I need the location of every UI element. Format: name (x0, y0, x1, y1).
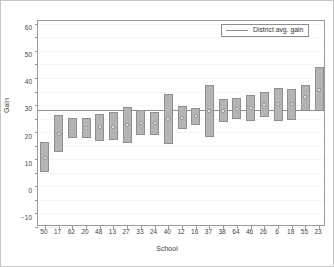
y-axis-tick-label: 40 (25, 79, 32, 86)
gridline (38, 213, 324, 214)
point-estimate-marker (180, 116, 184, 120)
x-axis-tick-label: 17 (54, 229, 61, 236)
x-axis-title: School (0, 245, 334, 252)
y-axis-tick (35, 24, 38, 25)
y-axis-tick-label: −10 (21, 215, 32, 222)
y-axis-tick (35, 186, 38, 187)
x-axis-tick-label: 62 (68, 229, 75, 236)
x-axis-tick-label: 40 (164, 229, 171, 236)
y-axis-tick-label: 10 (25, 161, 32, 168)
gridline (38, 51, 324, 52)
point-estimate-marker (153, 121, 157, 125)
x-axis-tick-label: 48 (95, 229, 102, 236)
x-axis-tick-label: 20 (81, 229, 88, 236)
x-axis-tick-label: 46 (246, 229, 253, 236)
x-axis-tick-label: 16 (191, 229, 198, 236)
x-axis-tick-label: 18 (287, 229, 294, 236)
point-estimate-marker (249, 106, 253, 110)
x-axis-tick-label: 23 (314, 229, 321, 236)
x-axis-tick-label: 27 (122, 229, 129, 236)
y-axis-tick (35, 173, 38, 174)
x-axis-tick-label: 55 (301, 229, 308, 236)
gridline (38, 64, 324, 65)
gridline (38, 186, 324, 187)
y-axis-tick-label: 30 (25, 106, 32, 113)
y-axis-tick (35, 92, 38, 93)
gridline (38, 200, 324, 201)
x-axis-tick-label: 6 (275, 229, 279, 236)
x-axis-tick-label: 38 (218, 229, 225, 236)
legend-item-label: District avg. gain (253, 27, 303, 34)
y-axis-tick (35, 132, 38, 133)
y-axis-tick (35, 51, 38, 52)
chart-legend: District avg. gain (221, 24, 309, 37)
point-estimate-marker (43, 156, 47, 160)
y-axis-tick-label: 60 (25, 25, 32, 32)
x-axis-tick-label: 64 (232, 229, 239, 236)
gridline (38, 159, 324, 160)
y-axis-tick-label: 20 (25, 134, 32, 141)
x-axis-tick-labels: 5017622048132733244012163738644626618552… (37, 229, 325, 241)
y-axis-tick (35, 78, 38, 79)
point-estimate-marker (57, 132, 61, 136)
x-axis-tick-label: 12 (177, 229, 184, 236)
x-axis-tick-label: 50 (40, 229, 47, 236)
y-axis-tick (35, 64, 38, 65)
point-estimate-marker (221, 109, 225, 113)
y-axis-tick (35, 200, 38, 201)
x-axis-tick-label: 24 (150, 229, 157, 236)
y-axis-tick-label: 50 (25, 52, 32, 59)
gridline (38, 78, 324, 79)
plot-area (37, 20, 325, 226)
chart-figure: Gain −100102030405060 501762204813273324… (0, 0, 334, 267)
point-estimate-marker (262, 103, 266, 107)
y-axis-tick-label: 0 (28, 188, 32, 195)
y-axis-tick (35, 159, 38, 160)
x-axis-tick-label: 26 (260, 229, 267, 236)
point-estimate-marker (84, 126, 88, 130)
y-axis-tick (35, 105, 38, 106)
y-axis-tick (35, 227, 38, 228)
y-axis-tick (35, 119, 38, 120)
y-axis-tick (35, 213, 38, 214)
y-axis-tick (35, 146, 38, 147)
gridline (38, 37, 324, 38)
y-axis-tick (35, 37, 38, 38)
y-axis-tick-labels: −100102030405060 (0, 20, 35, 226)
gridline (38, 173, 324, 174)
x-axis-tick-label: 37 (205, 229, 212, 236)
legend-line-swatch (226, 30, 248, 31)
x-axis-tick-label: 13 (109, 229, 116, 236)
point-estimate-marker (125, 123, 129, 127)
point-estimate-marker (317, 88, 321, 92)
gridline (38, 146, 324, 147)
x-axis-tick-label: 33 (136, 229, 143, 236)
point-estimate-marker (290, 102, 294, 106)
